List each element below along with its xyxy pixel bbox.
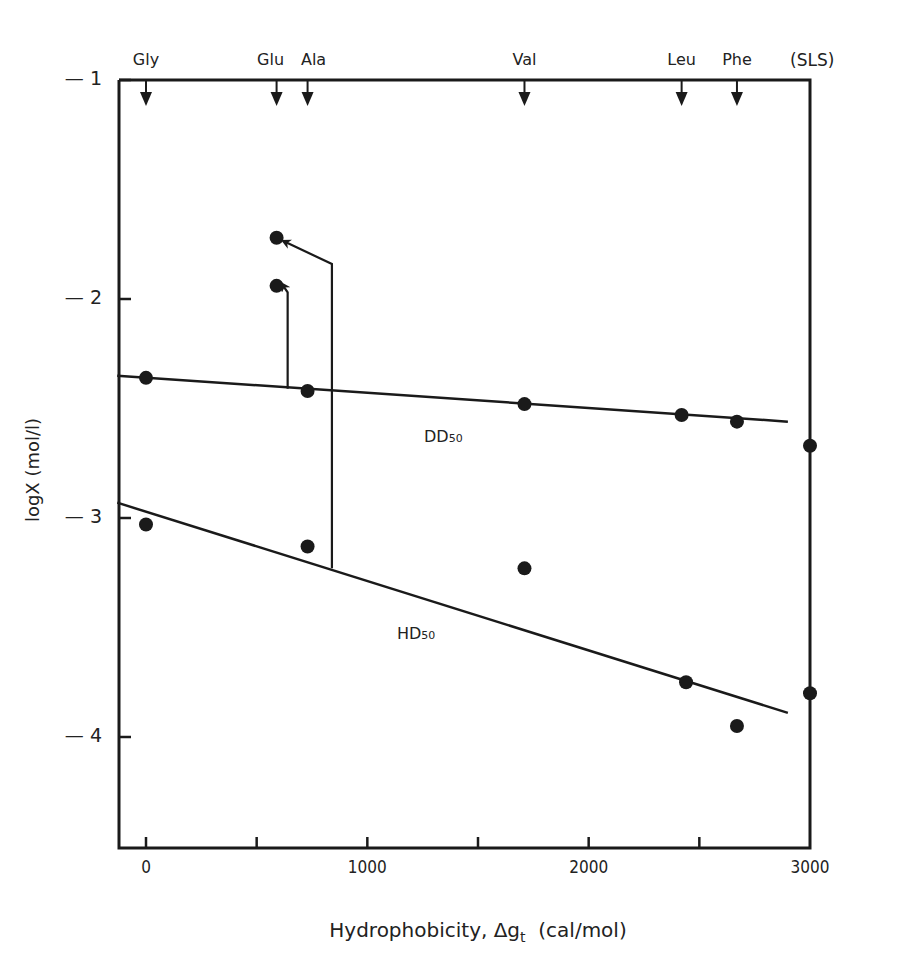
chart-container: — 1— 2— 3— 40100020003000GlyGluAlaValLeu…: [0, 0, 899, 977]
series-label-sub: 50: [449, 432, 463, 445]
y-tick-label: — 3: [42, 505, 102, 527]
data-point: [803, 439, 817, 453]
series-label-hd50: HD50: [397, 624, 435, 643]
annotation-arrow-hd: [285, 242, 331, 568]
data-point: [270, 231, 284, 245]
data-point: [139, 518, 153, 532]
x-tick-label: 0: [141, 857, 151, 877]
series-label-main: DD: [424, 427, 449, 446]
top-marker-arrow-icon: [140, 92, 152, 106]
series-label-sub: 50: [421, 629, 435, 642]
data-point: [517, 561, 531, 575]
data-point: [270, 279, 284, 293]
data-point: [679, 675, 693, 689]
top-marker-label: Val: [512, 50, 536, 69]
top-marker-label: Glu: [257, 50, 284, 69]
data-point: [301, 384, 315, 398]
y-tick-label: — 2: [42, 286, 102, 308]
data-point: [301, 539, 315, 553]
top-marker-label: Leu: [667, 50, 696, 69]
x-axis-label-sub: t: [520, 929, 526, 945]
data-point: [139, 371, 153, 385]
data-point: [675, 408, 689, 422]
top-marker-arrow-icon: [271, 92, 283, 106]
top-marker-arrow-icon: [518, 92, 530, 106]
y-tick-label: — 4: [42, 724, 102, 746]
x-axis-label-unit: (cal/mol): [538, 918, 626, 942]
series-label-main: HD: [397, 624, 421, 643]
top-marker-arrow-icon: [731, 92, 743, 106]
top-marker-label: Gly: [133, 50, 159, 69]
data-point: [730, 415, 744, 429]
plot-area: [0, 0, 899, 977]
data-point: [730, 719, 744, 733]
top-marker-label: Ala: [301, 50, 326, 69]
y-tick-label: — 1: [42, 67, 102, 89]
x-tick-label: 2000: [569, 857, 608, 877]
annotation-arrow-dd: [283, 286, 287, 389]
data-point: [803, 686, 817, 700]
x-tick-label: 3000: [791, 857, 830, 877]
series-label-dd50: DD50: [424, 427, 463, 446]
top-marker-label-sls: (SLS): [790, 50, 834, 70]
top-marker-arrow-icon: [676, 92, 688, 106]
plot-frame: [119, 80, 810, 848]
top-marker-label: Phe: [722, 50, 752, 69]
data-point: [517, 397, 531, 411]
top-marker-arrow-icon: [302, 92, 314, 106]
y-axis-label: logX (mol/l): [22, 418, 43, 522]
x-tick-label: 1000: [348, 857, 387, 877]
x-axis-label-main: Hydrophobicity, Δg: [329, 918, 520, 942]
x-axis-label: Hydrophobicity, Δgt (cal/mol): [329, 918, 626, 945]
